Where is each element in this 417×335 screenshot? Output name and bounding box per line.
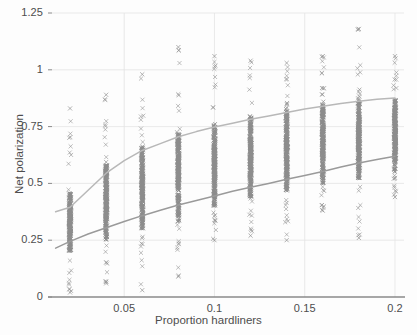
x-tick-label: 0.15 — [275, 302, 335, 314]
scatter-points — [67, 27, 398, 294]
x-tick-label: 0.05 — [94, 302, 154, 314]
axis-lines — [48, 13, 405, 297]
x-tick-label: 0.2 — [365, 302, 417, 314]
grid-lines — [52, 13, 404, 297]
y-tick-label: 0 — [0, 290, 43, 302]
x-axis-title: Proportion hardliners — [0, 314, 417, 326]
plot-area — [0, 0, 417, 335]
y-tick-label: 1.25 — [0, 6, 43, 18]
y-tick-label: 1 — [0, 63, 43, 75]
x-tick-label: 0.1 — [184, 302, 244, 314]
y-axis-title: Net polarization — [13, 94, 25, 214]
net-polarization-scatter-chart: 00.250.50.7511.25 0.050.10.150.2 Proport… — [0, 0, 417, 335]
y-tick-label: 0.25 — [0, 233, 43, 245]
